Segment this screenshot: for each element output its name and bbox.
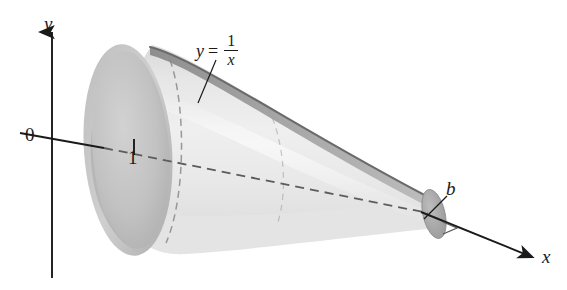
figure-canvas: [0, 0, 567, 290]
fraction-denominator: x: [225, 51, 238, 68]
tick-label-b: b: [446, 179, 456, 198]
equation-fraction: 1 x: [224, 33, 238, 68]
origin-label: 0: [25, 125, 35, 144]
equation-equals: =: [208, 42, 218, 60]
curve-equation-label: y = 1 x: [196, 33, 238, 68]
x-axis-label: x: [542, 247, 550, 266]
tick-label-one: 1: [128, 148, 138, 167]
y-axis-label: y: [44, 14, 52, 33]
gabriels-horn-figure: y x 0 1 b y = 1 x: [0, 0, 567, 290]
equation-lhs: y: [196, 42, 204, 60]
fraction-numerator: 1: [224, 33, 238, 50]
